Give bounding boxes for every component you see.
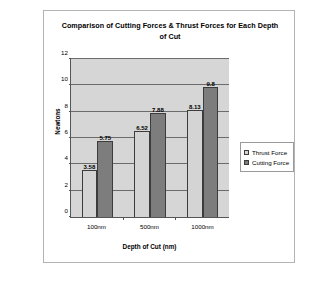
bar-thrust-force[interactable]: 8.13 — [187, 110, 203, 217]
chart-title-line-1: Comparison of Cutting Forces & Thrust Fo… — [58, 20, 282, 31]
legend-label-cutting-force: Cutting Force — [252, 159, 289, 166]
chart-title: Comparison of Cutting Forces & Thrust Fo… — [58, 20, 282, 42]
y-axis-tick-label: 10 — [46, 75, 68, 82]
legend-swatch-cutting-force — [244, 160, 249, 165]
plot-area: 024681012 3.585.756.527.888.139.8 — [70, 59, 229, 218]
x-axis-tick-label: 500nm — [123, 223, 176, 230]
y-axis-tick-label: 2 — [46, 180, 68, 187]
bar-group: 6.527.88 — [124, 59, 177, 217]
y-axis-tick-label: 12 — [46, 49, 68, 56]
legend-swatch-thrust-force — [244, 150, 249, 155]
x-axis-tick-mark — [123, 217, 124, 220]
legend-label-thrust-force: Thrust Force — [252, 149, 287, 156]
bar-value-label: 3.58 — [84, 164, 96, 170]
bar-groups: 3.585.756.527.888.139.8 — [71, 59, 229, 217]
bar-group: 3.585.75 — [71, 59, 124, 217]
bar-thrust-force[interactable]: 6.52 — [134, 131, 150, 217]
bar-value-label: 8.13 — [189, 104, 201, 110]
x-axis-tick-mark — [175, 217, 176, 220]
bar-value-label: 5.75 — [99, 135, 111, 141]
bar-value-label: 7.88 — [152, 107, 164, 113]
bar-cutting-force[interactable]: 5.75 — [97, 141, 113, 217]
chart-page: Comparison of Cutting Forces & Thrust Fo… — [0, 0, 317, 282]
x-axis-title: Depth of Cut (nm) — [70, 243, 229, 250]
y-axis-tick-label: 8 — [46, 101, 68, 108]
bar-cutting-force[interactable]: 7.88 — [150, 113, 166, 217]
x-axis-tick-labels: 100nm500nm1000nm — [70, 223, 229, 230]
y-axis-tick-label: 4 — [46, 154, 68, 161]
bar-group: 8.139.8 — [176, 59, 229, 217]
bar-cutting-force[interactable]: 9.8 — [203, 87, 219, 217]
chart-legend: Thrust Force Cutting Force — [240, 142, 294, 172]
bar-value-label: 9.8 — [206, 81, 214, 87]
x-axis-tick-label: 1000nm — [176, 223, 229, 230]
x-axis-tick-label: 100nm — [70, 223, 123, 230]
chart-frame: Comparison of Cutting Forces & Thrust Fo… — [43, 10, 295, 263]
y-axis-tick-label: 6 — [46, 128, 68, 135]
bar-thrust-force[interactable]: 3.58 — [82, 170, 98, 217]
legend-item: Cutting Force — [244, 157, 289, 167]
y-axis-tick-label: 0 — [46, 207, 68, 214]
legend-item: Thrust Force — [244, 147, 289, 157]
bar-value-label: 6.52 — [136, 125, 148, 131]
chart-title-line-2: of Cut — [58, 31, 282, 42]
